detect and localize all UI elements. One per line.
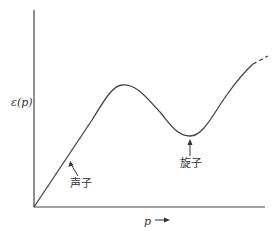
x-axis-label: p — [144, 216, 151, 227]
phonon-arrow — [69, 161, 79, 176]
phonon-label: 声子 — [70, 178, 92, 189]
y-axis-label: ε(p) — [11, 97, 33, 108]
dispersion-diagram — [0, 0, 275, 231]
dispersion-curve — [34, 64, 253, 207]
roton-arrow — [188, 139, 193, 156]
roton-label: 旋子 — [180, 158, 202, 169]
dispersion-curve-extension — [253, 56, 268, 64]
arrow-right-icon — [155, 218, 170, 223]
